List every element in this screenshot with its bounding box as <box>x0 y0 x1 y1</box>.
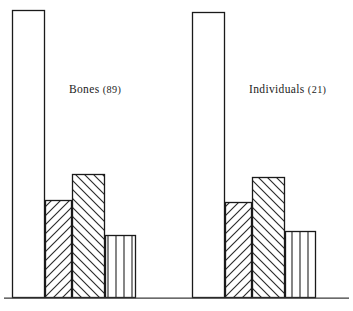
group-label-individuals: Individuals (21) <box>249 83 326 95</box>
group-label-bones-text: Bones <box>69 83 100 95</box>
group-label-bones: Bones (89) <box>69 83 121 95</box>
bar-individuals-3 <box>253 178 285 298</box>
bar-group-bones <box>13 11 136 298</box>
bar-chart-figure: Bones (89) Individuals (21) <box>0 0 353 311</box>
bar-bones-2 <box>46 201 72 298</box>
chart-canvas <box>0 0 353 311</box>
group-label-bones-count: (89) <box>103 84 122 95</box>
bar-bones-3 <box>73 175 105 298</box>
group-label-individuals-text: Individuals <box>249 83 305 95</box>
bar-individuals-1 <box>193 13 225 298</box>
bar-bones-4 <box>106 236 136 298</box>
bar-individuals-2 <box>226 203 252 298</box>
bar-bones-1 <box>13 11 45 298</box>
bar-group-individuals <box>193 13 316 298</box>
bar-individuals-4 <box>286 232 316 298</box>
group-label-individuals-count: (21) <box>308 84 327 95</box>
